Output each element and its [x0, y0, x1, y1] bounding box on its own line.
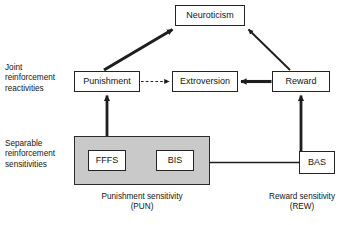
node-bas[interactable]: BAS: [299, 151, 335, 174]
node-reward[interactable]: Reward: [272, 71, 330, 92]
caption-punishment-sensitivity: Punishment sensitivity (PUN): [66, 192, 218, 213]
node-punishment[interactable]: Punishment: [74, 71, 140, 92]
node-neuroticism-label: Neuroticism: [186, 11, 234, 20]
node-punishment-label: Punishment: [83, 77, 131, 86]
node-bis[interactable]: BIS: [156, 150, 194, 171]
label-separable-reinforcement-sensitivities: Separable reinforcement sensitivities: [5, 139, 55, 170]
node-reward-label: Reward: [285, 77, 316, 86]
diagram-canvas: Neuroticism Punishment Extroversion Rewa…: [0, 0, 351, 225]
edge-reward-to-neuroticism: [249, 30, 291, 71]
node-neuroticism[interactable]: Neuroticism: [175, 5, 245, 26]
node-fffs[interactable]: FFFS: [88, 150, 126, 171]
label-joint-reinforcement-reactivities: Joint reinforcement reactivities: [5, 63, 55, 94]
caption-reward-sensitivity: Reward sensitivity (REW): [253, 192, 351, 213]
node-extroversion-label: Extroversion: [180, 77, 230, 86]
node-bis-label: BIS: [168, 156, 183, 165]
node-bas-label: BAS: [308, 158, 326, 167]
node-fffs-label: FFFS: [96, 156, 119, 165]
edge-punishment-to-neuroticism: [104, 30, 173, 71]
node-extroversion[interactable]: Extroversion: [172, 71, 238, 92]
